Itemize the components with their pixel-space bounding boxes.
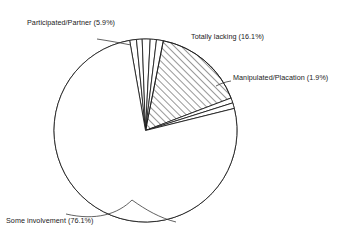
slice-label-totally-lacking: Totally lacking (16.1%) <box>191 33 264 40</box>
slice-label-some-involvement: Some involvement (76.1%) <box>6 217 94 224</box>
slice-label-manipulated-placation: Manipulated/Placation (1.9%) <box>233 74 328 81</box>
slice-label-participated-partner: Participated/Partner (5.9%) <box>27 19 115 26</box>
pie-chart-figure: Participated/Partner (5.9%) Totally lack… <box>0 0 352 234</box>
pie-chart-graphic <box>0 0 352 234</box>
pie-slices-group <box>54 39 237 222</box>
